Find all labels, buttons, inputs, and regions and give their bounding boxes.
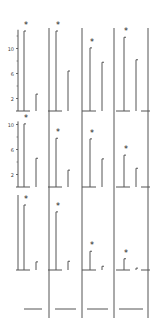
- significance-asterisk: *: [56, 21, 60, 30]
- significance-asterisk: *: [124, 249, 128, 258]
- y-tick-label: 10: [8, 122, 14, 128]
- small-multiples-bar-chart: 2610****2610********: [0, 0, 158, 331]
- significance-asterisk: *: [124, 27, 128, 36]
- significance-asterisk: *: [90, 241, 94, 250]
- chart-canvas: 2610****2610********: [0, 0, 158, 331]
- y-tick-label: 2: [11, 96, 14, 102]
- significance-asterisk: *: [24, 114, 28, 123]
- significance-asterisk: *: [90, 129, 94, 138]
- y-tick-label: 10: [8, 46, 14, 52]
- y-tick-label: 6: [11, 147, 14, 153]
- significance-asterisk: *: [24, 195, 28, 204]
- significance-asterisk: *: [124, 145, 128, 154]
- y-tick-label: 2: [11, 172, 14, 178]
- y-tick-label: 6: [11, 71, 14, 77]
- significance-asterisk: *: [56, 128, 60, 137]
- significance-asterisk: *: [90, 38, 94, 47]
- significance-asterisk: *: [56, 202, 60, 211]
- significance-asterisk: *: [24, 21, 28, 30]
